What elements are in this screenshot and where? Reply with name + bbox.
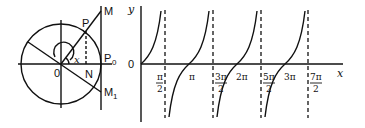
tick-3pi-over-2-num: 3π [215,72,227,82]
label-P0-sub: 0 [112,58,117,67]
tangent-graph [141,6,343,122]
graph-labels: y 0 x π 2 π 3π 2 2π 5π 2 3π 7π 2 [127,3,344,94]
tick-7pi-over-2-num: 7π [310,72,322,82]
tick-2pi: 2π [236,72,248,82]
origin-label: 0 [128,58,134,70]
tick-7pi-over-2-den: 2 [313,84,319,94]
tick-3pi-over-2-den: 2 [218,84,224,94]
label-M1-sub: 1 [113,92,118,101]
tan-branch-0 [141,11,161,64]
tick-pi: π [189,72,195,82]
line-M1 [28,42,101,92]
tick-3pi: 3π [284,72,296,82]
tick-5pi-over-2-num: 5π [263,72,275,82]
tick-pi-over-2-num: π [157,72,163,82]
label-P0: P [104,52,111,64]
label-M1: M [104,86,113,98]
ray-OM [61,11,101,64]
angle-arc-x [66,58,69,64]
label-P: P [82,17,89,29]
diagram-canvas: M P P 0 M 1 0 N x y 0 x π 2 [0,0,365,128]
tick-5pi-over-2-den: 2 [266,84,272,94]
unit-circle-figure [18,6,112,110]
label-x-angle: x [74,54,80,65]
y-axis-label: y [127,3,135,16]
tick-pi-over-2-den: 2 [157,84,163,94]
label-M: M [104,5,113,17]
x-axis-label: x [337,67,344,80]
label-O: 0 [54,67,60,79]
label-N: N [85,68,93,80]
